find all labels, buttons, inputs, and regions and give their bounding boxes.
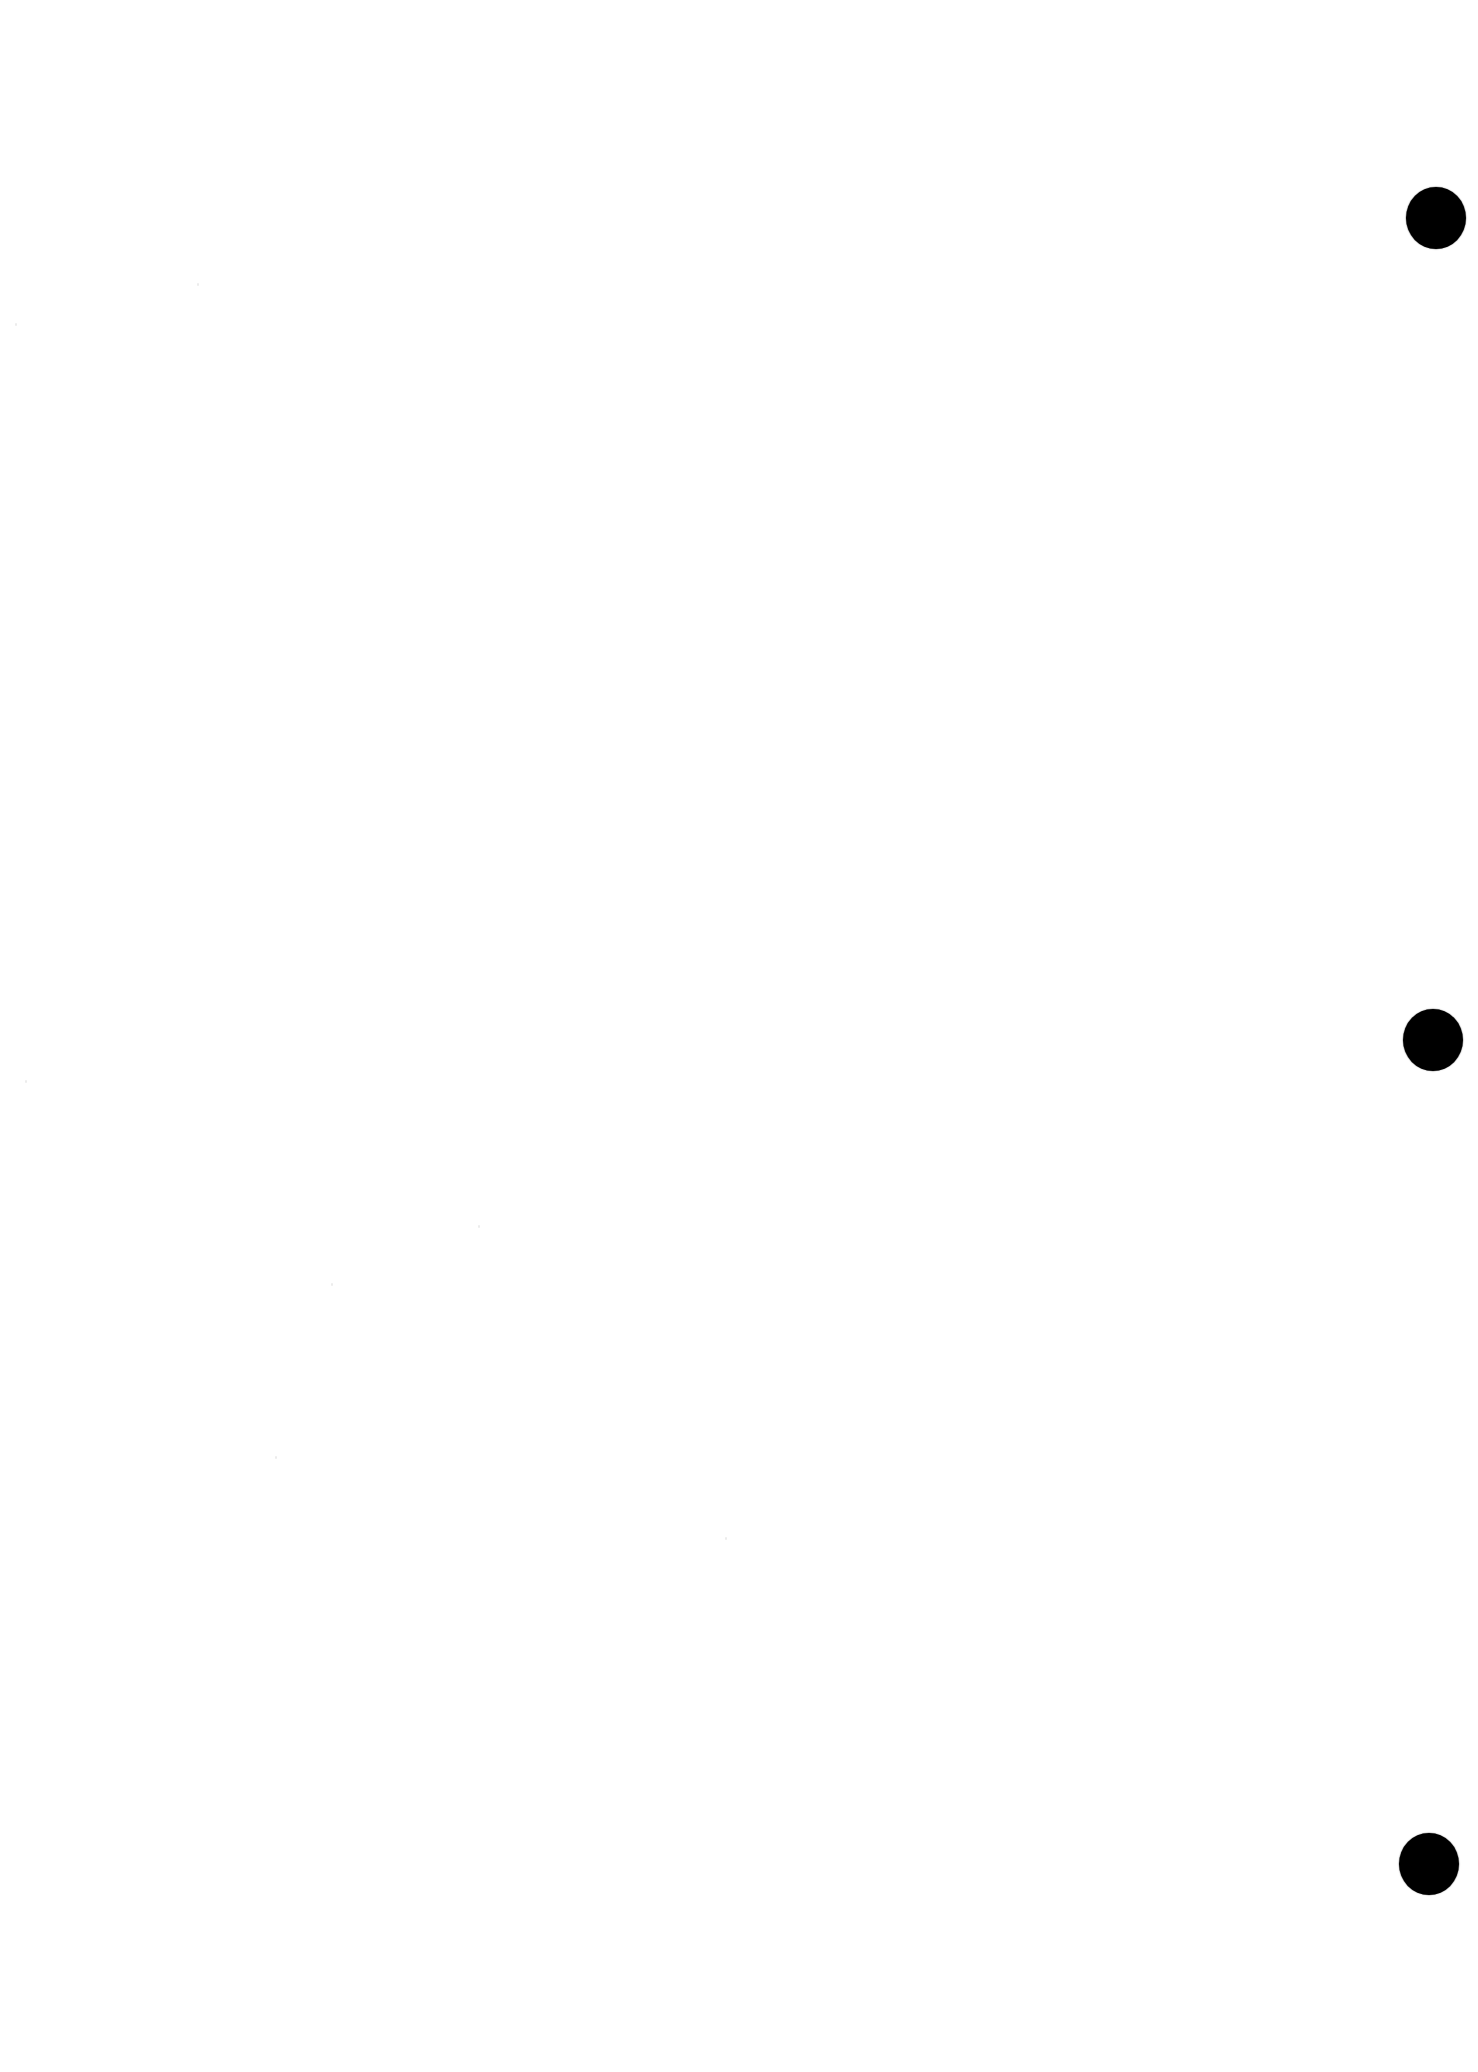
- scan-speck: [197, 283, 199, 286]
- scan-speck: [478, 1225, 480, 1228]
- scan-speck: [275, 1456, 277, 1459]
- punch-hole-top: [1406, 187, 1466, 249]
- scan-speck: [15, 323, 17, 326]
- scan-speck: [331, 1283, 333, 1286]
- punch-hole-middle: [1403, 1009, 1463, 1071]
- punch-hole-bottom: [1399, 1833, 1459, 1895]
- blank-document-page: [0, 0, 1478, 2072]
- scan-speck: [725, 1537, 727, 1540]
- scan-speck: [25, 1080, 27, 1083]
